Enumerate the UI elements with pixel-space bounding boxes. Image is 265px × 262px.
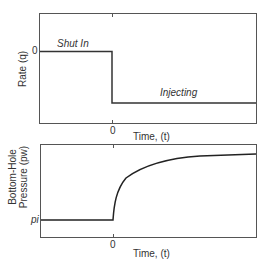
pressure-y-label: Bottom-Hole Pressure (pw) [7, 137, 29, 217]
pressure-curve [41, 154, 256, 220]
rate-x-label: Time, (t) [133, 131, 170, 142]
rate-plot-frame [40, 14, 257, 124]
injecting-label: Injecting [160, 87, 197, 98]
pressure-y-label-line1: Bottom-Hole [7, 137, 18, 217]
rate-curve [40, 52, 256, 104]
rate-y-tick: 0 [32, 45, 38, 56]
pressure-x-label: Time, (t) [133, 248, 170, 259]
pressure-plot-frame [41, 145, 257, 238]
rate-y-label: Rate (q) [17, 51, 28, 87]
rate-x-tick: 0 [110, 125, 116, 136]
pressure-x-tick: 0 [110, 239, 116, 250]
shut-in-label: Shut In [57, 38, 89, 49]
pressure-y-tick: pi [31, 214, 39, 225]
pressure-y-label-line2: Pressure (pw) [18, 137, 29, 217]
